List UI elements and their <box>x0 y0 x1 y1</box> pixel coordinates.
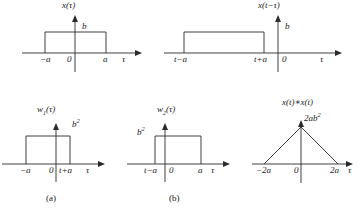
caption-a: (a) <box>46 193 56 203</box>
panel-w1-tau: w1(τ) b2 −a 0 t+a τ (a) <box>0 100 125 195</box>
x-axis-label: τ <box>122 55 125 64</box>
amplitude-label: b <box>82 22 87 31</box>
x-tick-zero: 0 <box>282 55 287 64</box>
amplitude-exponent: 2 <box>318 111 321 118</box>
y-axis-arrow-icon <box>162 123 168 130</box>
pulse-trace <box>184 32 264 53</box>
x-axis-arrow-icon <box>223 161 230 167</box>
pulse-trace <box>26 136 70 164</box>
x-tick-a: a <box>198 166 203 175</box>
panel-w2-tau: w2(τ) b2 t−a 0 a τ (b) <box>125 100 250 195</box>
panel-title: x(t)∗x(t) <box>282 98 313 107</box>
amplitude-label: 2ab2 <box>304 114 321 123</box>
panel-convolution: x(t)∗x(t) 2ab2 −2a 0 2a τ <box>250 95 364 195</box>
panel-title: x(t−τ) <box>258 1 280 10</box>
plot-x-t-minus-tau <box>160 0 364 95</box>
amplitude-exponent: 2 <box>142 125 145 132</box>
pulse-trace <box>155 136 201 164</box>
x-axis-arrow-icon <box>135 50 142 56</box>
x-axis-label: τ <box>320 55 323 64</box>
x-tick-zero: 0 <box>169 166 174 175</box>
panel-title-rest: (τ) <box>166 104 175 114</box>
x-axis-arrow-icon <box>335 50 342 56</box>
x-axis-arrow-icon <box>98 161 105 167</box>
amplitude-exponent: 2 <box>77 117 80 124</box>
amplitude-label: b2 <box>137 128 145 137</box>
amplitude-label: b <box>285 22 290 31</box>
x-tick-t-plus-a: t+a <box>59 166 72 175</box>
x-tick-zero: 0 <box>294 166 299 175</box>
x-axis-label: τ <box>348 166 351 175</box>
x-tick-minus-2a: −2a <box>256 166 271 175</box>
plot-w1-tau <box>0 100 125 195</box>
panel-x-t-minus-tau: x(t−τ) b t−a t+a 0 τ <box>160 0 364 95</box>
x-axis-label: τ <box>211 166 214 175</box>
pulse-trace <box>45 32 106 53</box>
plot-x-tau <box>0 0 160 95</box>
panel-x-tau: x(τ) b −a 0 a τ <box>0 0 160 95</box>
x-tick-minus-a: −a <box>40 55 51 64</box>
panel-title: w1(τ) <box>37 105 55 116</box>
y-axis-arrow-icon <box>53 123 59 130</box>
x-tick-zero: 0 <box>49 166 54 175</box>
x-tick-zero: 0 <box>67 55 72 64</box>
x-tick-t-minus-a: t−a <box>174 55 187 64</box>
amplitude-label: b2 <box>72 120 80 129</box>
plot-convolution <box>250 95 364 195</box>
y-axis-arrow-icon <box>275 15 281 22</box>
x-tick-t-plus-a: t+a <box>254 55 267 64</box>
x-tick-minus-a: −a <box>20 166 31 175</box>
panel-title-rest: (τ) <box>46 104 55 114</box>
x-axis-label: τ <box>86 166 89 175</box>
y-axis-arrow-icon <box>72 15 78 22</box>
x-tick-2a: 2a <box>330 166 339 175</box>
caption-b: (b) <box>169 193 180 203</box>
figure-convolution: x(τ) b −a 0 a τ x(t−τ) b t−a t+a 0 τ <box>0 0 364 213</box>
panel-title: w2(τ) <box>157 105 175 116</box>
plot-w2-tau <box>125 100 250 195</box>
panel-title: x(τ) <box>62 1 75 10</box>
amplitude-base: 2ab <box>304 113 318 123</box>
x-tick-t-minus-a: t−a <box>144 166 157 175</box>
x-tick-a: a <box>103 55 108 64</box>
